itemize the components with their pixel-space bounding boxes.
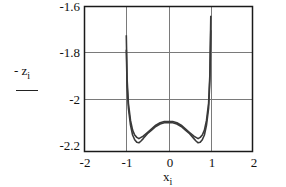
x-axis-label: xi xyxy=(163,170,172,184)
y-axis-label-placeholder-line xyxy=(16,90,38,91)
y-tick-label: -2.2 xyxy=(36,139,80,152)
x-axis-label-subscript: i xyxy=(170,176,173,187)
plot-frame xyxy=(85,7,253,152)
y-tick-label: -1.8 xyxy=(36,46,80,59)
y-axis-label-subscript: i xyxy=(27,70,30,81)
y-tick-label: -2 xyxy=(36,93,80,106)
x-tick-label: 1 xyxy=(200,156,224,169)
x-axis-label-main: x xyxy=(163,169,170,184)
x-tick-label: 0 xyxy=(158,156,182,169)
series-line-curve-1 xyxy=(126,16,211,139)
y-axis-label: - zi xyxy=(14,64,40,78)
x-tick-label: 2 xyxy=(242,156,266,169)
series-line-curve-2 xyxy=(126,30,211,143)
x-tick-label: -2 xyxy=(73,156,97,169)
series-layer xyxy=(126,16,211,143)
y-tick-label: -1.6 xyxy=(36,0,80,13)
x-tick-label: -1 xyxy=(115,156,139,169)
y-axis-label-main: - z xyxy=(14,63,27,78)
grid-lines xyxy=(84,6,253,152)
